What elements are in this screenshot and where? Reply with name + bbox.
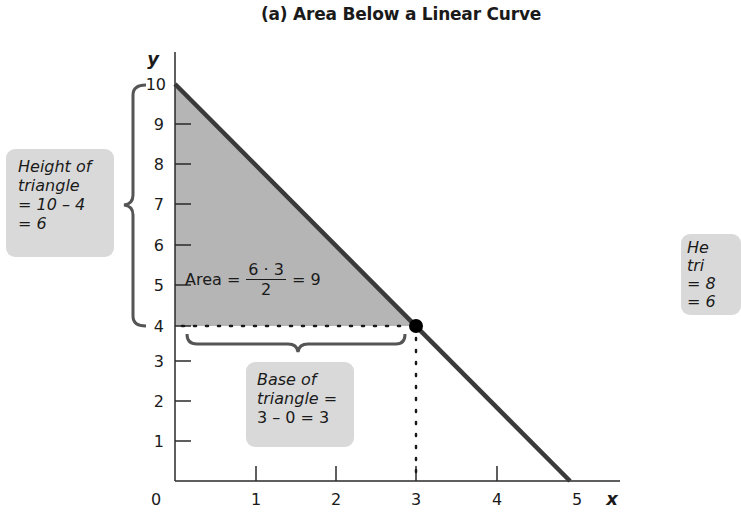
y-tick-label: 8: [154, 155, 164, 174]
x-tick-label: 3: [411, 490, 421, 509]
y-tick-label: 10: [146, 75, 166, 94]
right-note-line: He: [687, 239, 741, 257]
base-note: Base of triangle = 3 – 0 = 3: [246, 362, 354, 447]
base-note-line: 3 – 0 = 3: [257, 408, 354, 427]
x-ticks: [256, 466, 497, 481]
area-result: = 9: [292, 270, 321, 289]
y-tick-label: 3: [154, 352, 164, 371]
x-tick-label: 4: [492, 490, 502, 509]
right-note-line: = 6: [687, 293, 741, 311]
right-note-line: = 8: [687, 275, 741, 293]
base-note-line: triangle =: [257, 389, 354, 408]
base-note-line: Base of: [257, 370, 354, 389]
area-fraction: 6 · 3 2: [246, 260, 286, 299]
base-brace: [187, 334, 405, 352]
height-note-line: Height of: [18, 157, 114, 176]
height-note-line: = 10 – 4: [18, 195, 114, 214]
height-note: Height of triangle = 10 – 4 = 6: [6, 149, 114, 257]
area-prefix: Area =: [185, 270, 240, 289]
y-tick-label: 1: [154, 432, 164, 451]
x-tick-label: 5: [572, 490, 582, 509]
height-note-line: = 6: [18, 214, 114, 233]
point-3-4: [409, 319, 423, 333]
area-denominator: 2: [261, 280, 271, 299]
x-tick-label: 1: [251, 490, 261, 509]
height-note-line: triangle: [18, 176, 114, 195]
area-annotation: Area = 6 · 3 2 = 9: [185, 260, 321, 299]
x-tick-label: 0: [151, 490, 161, 509]
y-axis-label: y: [147, 48, 160, 69]
y-tick-label: 7: [154, 195, 164, 214]
right-note-line: tri: [687, 257, 741, 275]
height-brace: [124, 85, 146, 326]
y-tick-label: 9: [154, 115, 164, 134]
x-tick-label: 2: [331, 490, 341, 509]
right-partial-note: He tri = 8 = 6: [681, 234, 741, 315]
y-tick-label: 4: [154, 317, 164, 336]
y-tick-label: 6: [154, 236, 164, 255]
y-tick-label: 5: [154, 276, 164, 295]
y-tick-label: 2: [154, 392, 164, 411]
area-numerator: 6 · 3: [246, 260, 286, 280]
x-axis-label: x: [605, 488, 619, 509]
